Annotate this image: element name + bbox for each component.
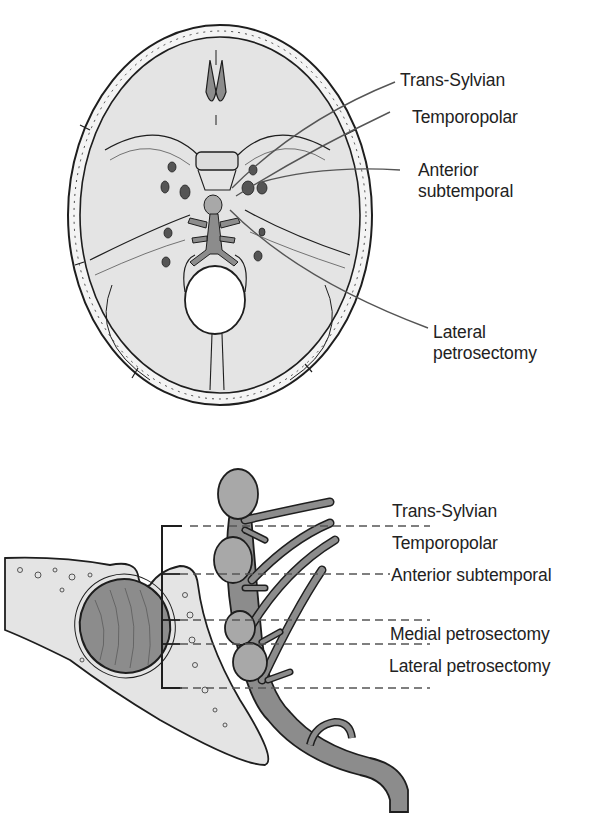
bottom-label-trans-sylvian: Trans-Sylvian (392, 501, 497, 522)
surgical-approaches-figure: Trans-Sylvian Temporopolar Anterior subt… (0, 0, 603, 824)
bottom-label-anterior-subtemporal: Anterior subtemporal (391, 565, 551, 586)
top-label-anterior-subtemporal: Anterior subtemporal (418, 160, 513, 202)
skull-base-illustration (0, 0, 603, 430)
top-label-lateral-petrosectomy: Lateral petrosectomy (433, 322, 537, 364)
top-label-temporopolar: Temporopolar (412, 107, 518, 128)
bottom-label-lateral-petrosectomy: Lateral petrosectomy (389, 656, 550, 677)
bottom-label-medial-petrosectomy: Medial petrosectomy (390, 624, 550, 645)
top-label-trans-sylvian: Trans-Sylvian (400, 70, 505, 91)
bottom-label-temporopolar: Temporopolar (392, 533, 498, 554)
